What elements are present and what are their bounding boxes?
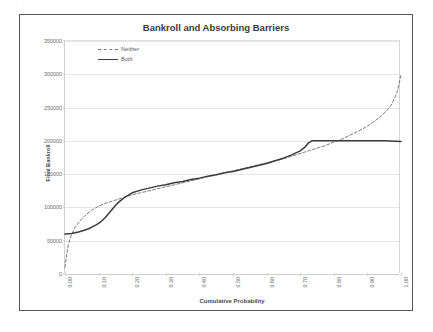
gridline — [65, 274, 399, 275]
y-tick-label: 300000 — [44, 71, 62, 77]
x-tick-label: 0.70 — [302, 277, 308, 288]
chart-legend: NeitherBoth — [98, 44, 164, 64]
legend-line-swatch-dashed — [98, 46, 118, 52]
legend-item-neither[interactable]: Neither — [98, 44, 164, 54]
y-tick-label: 0 — [59, 271, 62, 277]
legend-item-both[interactable]: Both — [98, 54, 164, 64]
x-tick-label: 0.30 — [168, 277, 174, 288]
y-tick-label: 200000 — [44, 138, 62, 144]
x-tick-label: 0.20 — [134, 277, 140, 288]
x-tick-mark — [401, 273, 402, 276]
legend-line-swatch-solid — [98, 56, 118, 62]
y-tick-label: 150000 — [44, 171, 62, 177]
x-tick-label: 1.00 — [403, 277, 409, 288]
legend-label: Both — [121, 56, 133, 62]
x-tick-label: 0.90 — [369, 277, 375, 288]
y-tick-label: 350000 — [44, 38, 62, 44]
series-lines-group — [65, 41, 401, 274]
cropped-text-remnant: · · · · · · · · · · · · · · · · · · · · … — [4, 0, 304, 8]
x-tick-label: 0.60 — [269, 277, 275, 288]
legend-label: Neither — [121, 46, 139, 52]
chart-title: Bankroll and Absorbing Barriers — [20, 22, 412, 33]
plot-box: 0500001000001500002000002500003000003500… — [64, 40, 400, 273]
x-tick-label: 0.40 — [201, 277, 207, 288]
x-axis-title: Cumulative Probability — [64, 298, 400, 304]
x-tick-label: 0.10 — [101, 277, 107, 288]
x-tick-label: 0.50 — [235, 277, 241, 288]
y-tick-label: 100000 — [44, 204, 62, 210]
y-tick-label: 250000 — [44, 105, 62, 111]
chart-plot-area: Bankroll and Absorbing Barriers Final Ba… — [20, 15, 412, 310]
x-tick-label: 0.80 — [336, 277, 342, 288]
y-tick-label: 50000 — [47, 238, 62, 244]
series-line-both — [65, 141, 401, 234]
x-tick-label: 0.00 — [67, 277, 73, 288]
chart-figure-frame: Bankroll and Absorbing Barriers Final Ba… — [19, 14, 413, 311]
